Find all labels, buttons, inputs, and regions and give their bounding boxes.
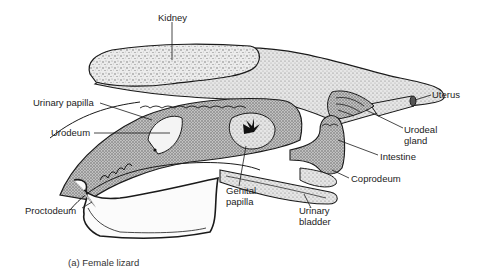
label-genital-papilla-line2: papilla [226, 196, 253, 207]
label-kidney: Kidney [158, 12, 187, 23]
label-urodeal-gland-line1: Urodeal [404, 124, 437, 135]
label-urodeum: Urodeum [51, 127, 90, 138]
label-urodeal-gland-line2: gland [404, 135, 427, 146]
label-proctodeum: Proctodeum [25, 205, 76, 216]
label-urinary-bladder-line2: bladder [299, 216, 331, 227]
label-urinary-bladder-line1: Urinary [299, 205, 330, 216]
label-urinary-papilla: Urinary papilla [33, 97, 94, 108]
diagram-stage: Kidney Urinary papilla Urodeum Uterus Ur… [0, 0, 488, 278]
label-coprodeum: Coprodeum [351, 173, 401, 184]
figure-caption: (a) Female lizard [68, 257, 139, 268]
label-uterus: Uterus [432, 89, 460, 100]
label-genital-papilla-line1: Genital [226, 185, 256, 196]
label-intestine: Intestine [380, 151, 416, 162]
